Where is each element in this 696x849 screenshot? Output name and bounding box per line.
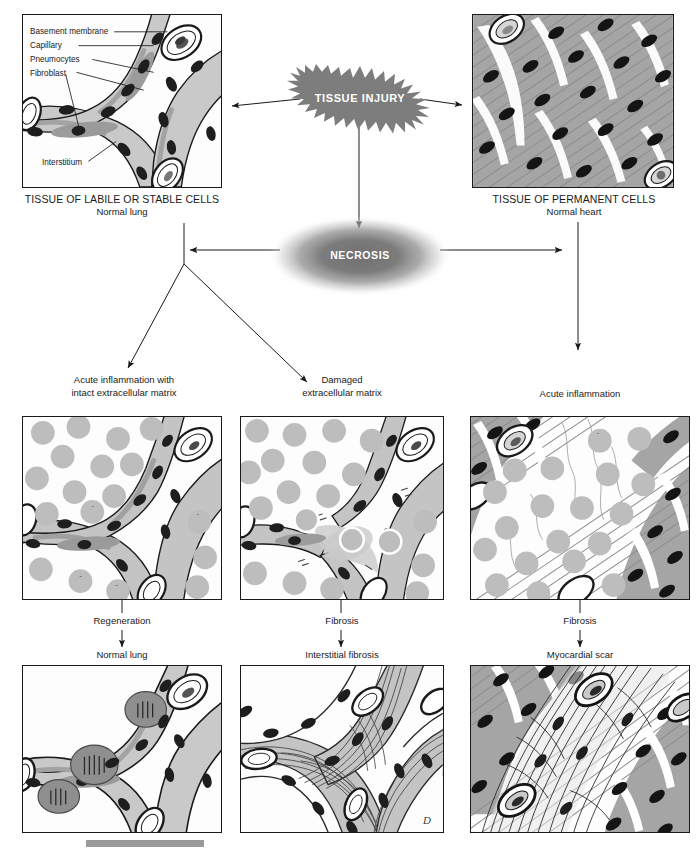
tissue-injury-label: TISSUE INJURY [276, 92, 444, 104]
damaged-matrix-illustration [241, 417, 443, 599]
label-regeneration: Regeneration [22, 615, 222, 628]
label-fibrosis-heart: Fibrosis [470, 615, 690, 628]
myocardial-scar-illustration [471, 666, 689, 832]
normal-heart-illustration [473, 15, 673, 187]
panel-damaged-matrix [240, 416, 444, 600]
label-damaged-ecm: Damaged extracellular matrix [240, 374, 444, 400]
label-acute-intact-line1: Acute inflammation with [18, 374, 230, 387]
panel-interstitial-fibrosis: D [240, 665, 444, 833]
necrosis-label: NECROSIS [268, 249, 452, 261]
callout-fibroblast: Fibroblast [30, 69, 66, 78]
necrosis-node: NECROSIS [268, 218, 452, 294]
label-acute-heart: Acute inflammation [470, 388, 690, 401]
artist-signature: D [422, 814, 431, 826]
panel-regenerated-lung [22, 665, 222, 833]
tissue-injury-node: TISSUE INJURY [276, 64, 444, 134]
figure-caption-rule [86, 840, 204, 847]
acute-inflammation-lung-illustration [23, 417, 221, 599]
acute-inflammation-heart-illustration [471, 417, 689, 599]
panel-normal-heart [472, 14, 674, 188]
callout-capillary: Capillary [30, 41, 62, 50]
caption-labile-stable-heading: TISSUE OF LABILE OR STABLE CELLS [0, 192, 244, 206]
callout-basement-membrane: Basement membrane [30, 27, 108, 36]
callout-pneumocytes: Pneumocytes [30, 55, 80, 64]
label-outcome-myocardial-scar: Myocardial scar [470, 649, 690, 662]
caption-permanent-heading: TISSUE OF PERMANENT CELLS [452, 192, 696, 206]
label-fibrosis-lung: Fibrosis [240, 615, 444, 628]
panel-acute-intact-matrix [22, 416, 222, 600]
label-acute-heart-line1: Acute inflammation [470, 388, 690, 401]
interstitial-fibrosis-illustration: D [241, 666, 443, 832]
panel-myocardial-scar [470, 665, 690, 833]
panel-acute-inflammation-heart [470, 416, 690, 600]
label-outcome-normal-lung: Normal lung [22, 649, 222, 662]
caption-permanent-sub: Normal heart [452, 206, 696, 219]
caption-labile-stable-sub: Normal lung [0, 206, 244, 219]
regenerated-lung-illustration [23, 666, 221, 832]
label-acute-intact-line2: intact extracellular matrix [18, 387, 230, 400]
callout-interstitium: Interstitium [42, 158, 82, 167]
label-damaged-ecm-line1: Damaged [240, 374, 444, 387]
label-acute-intact: Acute inflammation with intact extracell… [18, 374, 230, 400]
label-outcome-interstitial-fibrosis: Interstitial fibrosis [240, 649, 444, 662]
label-damaged-ecm-line2: extracellular matrix [240, 387, 444, 400]
